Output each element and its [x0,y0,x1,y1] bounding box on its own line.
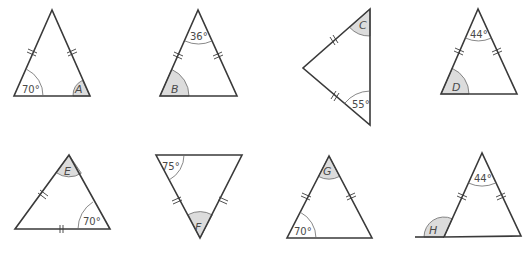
angle-label-55: 55° [352,99,370,110]
triangle-h: 44° H [415,153,521,237]
angle-label-70: 70° [294,226,312,237]
triangle-g: 70° G [287,156,372,238]
angle-label-44: 44° [470,29,488,40]
triangle-f: 75° F [156,155,242,238]
equal-side-marks [38,190,63,233]
unknown-angle-b: B [171,83,179,96]
angle-label-70: 70° [83,216,101,227]
triangle-c: 55° C [303,9,370,125]
unknown-angle-d: D [452,81,460,94]
unknown-angle-c: C [359,19,367,32]
triangle-b: 36° B [160,10,237,96]
isosceles-triangles-diagram: 70° A 36° B 55° C [0,0,530,253]
equal-side-marks [457,193,506,200]
equal-side-marks [173,52,223,59]
triangle-h-outline [444,153,521,237]
unknown-angle-e: E [64,165,71,178]
unknown-angle-g: G [323,165,332,178]
unknown-angle-f: F [195,221,202,234]
angle-label-75: 75° [162,161,180,172]
angle-label-36: 36° [190,31,208,42]
triangle-d: 44° D [441,9,517,94]
unknown-angle-a: A [74,83,83,96]
angle-label-70: 70° [22,84,40,95]
unknown-angle-h: H [429,224,437,237]
angle-label-44: 44° [474,173,492,184]
triangle-a: 70° A [14,10,90,96]
triangle-e: 70° E [15,155,110,233]
